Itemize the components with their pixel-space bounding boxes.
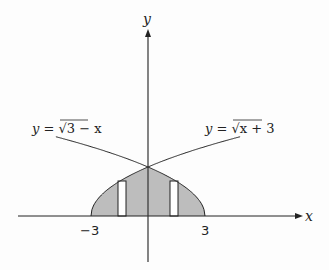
svg-text:y = √x + 3: y = √x + 3 bbox=[204, 121, 275, 136]
x-axis-arrow-icon bbox=[295, 213, 303, 219]
area-between-curves-diagram: x y −3 3 y = √3 − x y = √x + 3 bbox=[0, 0, 329, 270]
left-curve-equation-label: y = √3 − x bbox=[31, 120, 102, 136]
right-eq-sign: = √ bbox=[212, 121, 240, 136]
diagram-canvas: x y −3 3 y = √3 − x y = √x + 3 bbox=[0, 0, 329, 270]
left-strip-rectangle bbox=[118, 181, 126, 216]
right-strip-rectangle bbox=[170, 181, 178, 216]
y-axis-arrow-icon bbox=[145, 29, 151, 37]
svg-text:y = √3 − x: y = √3 − x bbox=[31, 121, 102, 136]
right-curve-equation-label: y = √x + 3 bbox=[204, 120, 275, 136]
x-axis-label: x bbox=[305, 208, 313, 224]
left-eq-radicand: 3 − x bbox=[67, 121, 102, 136]
tick-label-3: 3 bbox=[201, 223, 209, 238]
right-eq-radicand: x + 3 bbox=[240, 121, 275, 136]
left-eq-sign: = √ bbox=[39, 121, 67, 136]
y-axis-label: y bbox=[142, 11, 152, 27]
tick-label-neg-3: −3 bbox=[80, 223, 99, 238]
